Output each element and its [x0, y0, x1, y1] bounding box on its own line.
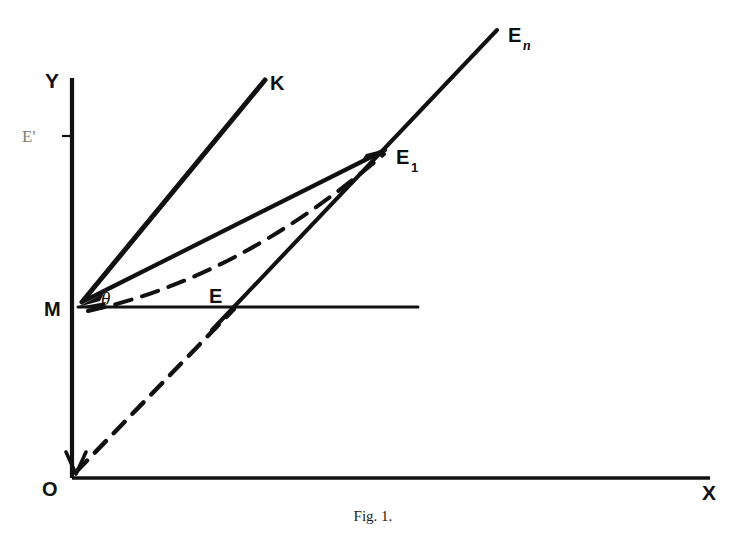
- figure-drawing-canvas: Y X O M E E 1 E n K θ E': [0, 0, 746, 539]
- x-axis-label: X: [702, 481, 716, 504]
- y-axis-label: Y: [45, 69, 59, 92]
- dashed-line-O-to-E: [76, 309, 234, 472]
- point-label-O: O: [42, 478, 58, 500]
- figure-container: Y X O M E E 1 E n K θ E' Fig. 1.: [0, 0, 746, 539]
- dashed-line-M-to-E1: [88, 154, 384, 311]
- point-label-M: M: [44, 298, 61, 320]
- point-label-En: E: [508, 24, 521, 46]
- dashed-lines-group: [76, 154, 384, 472]
- point-label-K: K: [270, 72, 285, 94]
- labels-group: Y X O M E E 1 E n K θ E': [22, 24, 716, 504]
- line-E-to-En: [212, 30, 497, 330]
- line-M-to-K: [82, 80, 265, 302]
- solid-lines-group: [78, 30, 497, 330]
- axes-group: [62, 78, 710, 478]
- point-sublabel-E1: 1: [411, 160, 418, 175]
- angle-label-theta: θ: [101, 288, 110, 309]
- point-sublabel-En: n: [523, 38, 531, 53]
- line-M-to-E1: [84, 150, 385, 301]
- y-axis-tick-label: E': [22, 127, 35, 146]
- figure-caption: Fig. 1.: [0, 508, 746, 525]
- point-label-E: E: [209, 285, 222, 307]
- point-label-E1: E: [396, 146, 409, 168]
